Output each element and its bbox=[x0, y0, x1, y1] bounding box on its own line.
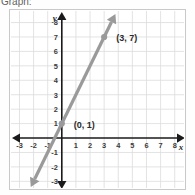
graph-panel-inner: -3-2-112345678-3-2-112345678xy(0, 1)(3, … bbox=[11, 11, 184, 188]
y-tick-label: 2 bbox=[54, 105, 58, 114]
x-tick-label: -2 bbox=[30, 141, 37, 150]
x-tick-label: 5 bbox=[130, 141, 134, 150]
y-tick-label: 3 bbox=[54, 91, 58, 100]
heading-strip: Graph: bbox=[0, 0, 195, 9]
x-tick-label: 3 bbox=[102, 141, 106, 150]
point-label: (3, 7) bbox=[116, 33, 137, 43]
x-tick-label: 7 bbox=[159, 141, 163, 150]
function-line bbox=[35, 22, 112, 179]
plotted-point bbox=[101, 34, 107, 40]
x-tick-label: 2 bbox=[88, 141, 92, 150]
x-tick-label: 6 bbox=[144, 141, 148, 150]
x-tick-label: 4 bbox=[116, 141, 121, 150]
x-tick-label: 8 bbox=[173, 141, 177, 150]
y-axis-arrow-down bbox=[57, 181, 66, 188]
y-tick-label: 1 bbox=[54, 119, 58, 128]
graph-screenshot: Graph: -3-2-112345678-3-2-112345678xy(0,… bbox=[0, 0, 195, 195]
y-tick-label: 6 bbox=[54, 47, 58, 56]
coordinate-plane-chart: -3-2-112345678-3-2-112345678xy(0, 1)(3, … bbox=[11, 11, 184, 188]
x-axis-label: x bbox=[178, 142, 184, 152]
plotted-point bbox=[59, 120, 65, 126]
y-tick-label: 5 bbox=[54, 62, 58, 71]
x-tick-label: -3 bbox=[16, 141, 23, 150]
y-tick-label: 7 bbox=[54, 33, 58, 42]
y-tick-label: -3 bbox=[51, 177, 58, 186]
y-tick-label: -2 bbox=[51, 163, 58, 172]
point-label: (0, 1) bbox=[74, 120, 95, 130]
x-tick-label: 1 bbox=[74, 141, 78, 150]
y-axis-arrow-up bbox=[57, 12, 66, 20]
y-tick-label: -1 bbox=[51, 148, 58, 157]
page-title: Graph: bbox=[1, 0, 32, 7]
graph-panel: -3-2-112345678-3-2-112345678xy(0, 1)(3, … bbox=[9, 9, 186, 190]
